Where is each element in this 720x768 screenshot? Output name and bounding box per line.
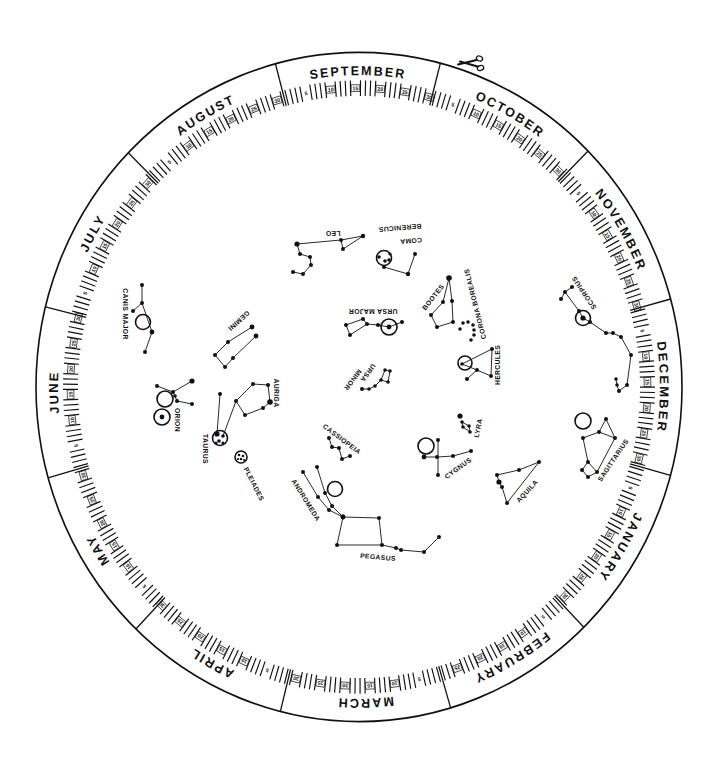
day-number: 20 bbox=[342, 682, 348, 688]
star-dot bbox=[218, 392, 222, 396]
star-dot bbox=[489, 374, 493, 378]
star-dot bbox=[291, 270, 295, 274]
day-label: 10 bbox=[69, 415, 77, 425]
planisphere: 51015202530SEPTEMBER51015202530OCTOBER51… bbox=[0, 0, 720, 768]
constellation-label: CANIS MAJOR bbox=[122, 288, 129, 339]
star-dot bbox=[441, 300, 445, 304]
star-dot bbox=[604, 331, 608, 335]
star-dot bbox=[214, 431, 219, 436]
day-number: 10 bbox=[69, 417, 76, 424]
star-dot bbox=[267, 399, 273, 405]
star-dot bbox=[160, 415, 165, 420]
star-dot bbox=[243, 413, 247, 417]
star-dot bbox=[472, 333, 476, 337]
star-dot bbox=[468, 430, 472, 434]
star-dot bbox=[451, 320, 455, 324]
star-dot bbox=[348, 333, 352, 337]
star-dot bbox=[625, 383, 629, 387]
star-dot bbox=[298, 252, 302, 256]
star-dot bbox=[446, 275, 452, 281]
star-dot bbox=[361, 317, 365, 321]
day-label: 20 bbox=[643, 403, 650, 412]
star-dot bbox=[323, 491, 327, 495]
star-dot bbox=[327, 436, 331, 440]
star-dot bbox=[308, 255, 312, 259]
star-dot bbox=[537, 460, 541, 464]
star-dot bbox=[316, 495, 320, 499]
star-dot bbox=[460, 420, 464, 424]
star-dot bbox=[388, 369, 392, 373]
star-dot bbox=[471, 323, 475, 327]
star-dot bbox=[189, 378, 194, 383]
day-number: 15 bbox=[644, 379, 650, 385]
day-number: 20 bbox=[377, 86, 383, 93]
star-dot bbox=[399, 548, 403, 552]
day-number: 25 bbox=[317, 680, 324, 687]
day-number: 10 bbox=[643, 353, 649, 360]
day-number: 10 bbox=[391, 680, 398, 687]
star-dot bbox=[413, 252, 417, 256]
star-dot bbox=[500, 485, 504, 489]
star-dot bbox=[140, 283, 144, 287]
star-dot bbox=[217, 439, 221, 443]
star-dot bbox=[379, 378, 383, 382]
star-dot bbox=[570, 285, 574, 289]
star-dot bbox=[461, 425, 465, 429]
day-label: 25 bbox=[70, 338, 78, 348]
star-dot bbox=[234, 399, 238, 403]
star-dot bbox=[475, 368, 479, 372]
constellation-label: URSA MAJOR bbox=[349, 308, 398, 315]
star-dot bbox=[315, 465, 319, 469]
month-label: JUNE bbox=[46, 370, 62, 414]
star-dot bbox=[629, 353, 633, 357]
star-dot bbox=[190, 402, 194, 406]
day-label: 20 bbox=[376, 85, 385, 92]
day-number: 25 bbox=[641, 430, 648, 437]
star-dot bbox=[517, 468, 521, 472]
star-dot bbox=[140, 301, 144, 305]
star-dot bbox=[341, 515, 346, 520]
star-dot bbox=[339, 238, 343, 242]
star-dot bbox=[337, 446, 341, 450]
star-dot bbox=[457, 413, 462, 418]
star-dot bbox=[377, 516, 381, 520]
star-dot bbox=[155, 384, 159, 388]
day-label: 10 bbox=[390, 680, 399, 688]
star-dot bbox=[394, 546, 398, 550]
day-tick bbox=[345, 81, 346, 97]
star-dot bbox=[335, 543, 339, 547]
star-dot bbox=[266, 383, 270, 387]
star-dot bbox=[597, 430, 601, 434]
star-dot bbox=[341, 247, 345, 251]
star-dot bbox=[294, 241, 299, 246]
day-number: 20 bbox=[68, 366, 74, 372]
star-dot bbox=[240, 458, 243, 461]
star-dot bbox=[435, 455, 439, 459]
star-dot bbox=[383, 259, 387, 263]
star-dot bbox=[382, 265, 386, 269]
star-dot bbox=[301, 470, 305, 474]
constellation-label: AURIGA bbox=[273, 379, 280, 408]
star-dot bbox=[505, 501, 509, 505]
star-dot bbox=[377, 255, 381, 259]
star-dot bbox=[340, 457, 344, 461]
star-dot bbox=[451, 454, 455, 458]
day-number: 10 bbox=[328, 86, 334, 93]
star-dot bbox=[467, 424, 471, 428]
star-dot bbox=[563, 290, 567, 294]
star-dot bbox=[437, 535, 441, 539]
star-dot bbox=[387, 325, 392, 330]
star-dot bbox=[251, 382, 255, 386]
star-dot bbox=[243, 459, 245, 461]
star-dot bbox=[465, 377, 469, 381]
star-dot bbox=[422, 455, 427, 460]
star-dot bbox=[213, 353, 217, 357]
star-dot bbox=[495, 473, 499, 477]
star-dot bbox=[559, 297, 563, 301]
star-dot bbox=[604, 417, 608, 421]
star-dot bbox=[469, 449, 473, 453]
constellation-label: TAURUS bbox=[202, 434, 209, 464]
day-label: 15 bbox=[644, 378, 651, 387]
star-dot bbox=[581, 436, 585, 440]
star-dot bbox=[373, 384, 377, 388]
